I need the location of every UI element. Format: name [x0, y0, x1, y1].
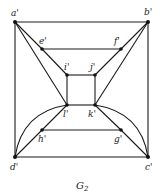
label-h: h'	[38, 134, 46, 144]
edge-b-f	[121, 22, 148, 49]
vertex-c	[146, 155, 150, 159]
edges	[15, 22, 148, 157]
vertex-a	[13, 20, 17, 24]
vertex-labels: a' b' c' d' e' f' i' j' l' k' h' g'	[10, 7, 153, 172]
label-b: b'	[144, 7, 152, 17]
vertex-e	[40, 47, 44, 51]
edge-a-l	[15, 22, 67, 105]
label-i: i'	[64, 62, 69, 72]
label-l: l'	[63, 109, 68, 119]
vertex-b	[146, 20, 150, 24]
label-c: c'	[145, 162, 153, 172]
vertex-k	[93, 103, 97, 107]
figure-caption: G2	[76, 180, 89, 193]
vertex-f	[119, 47, 123, 51]
label-k: k'	[88, 109, 96, 119]
edge-c-g	[121, 130, 148, 157]
label-f: f'	[113, 36, 120, 46]
vertex-l	[65, 103, 69, 107]
label-e: e'	[39, 36, 47, 46]
label-a: a'	[11, 8, 19, 18]
vertex-j	[93, 73, 97, 77]
vertex-g	[119, 128, 123, 132]
vertex-h	[40, 128, 44, 132]
edge-b-k	[95, 22, 148, 105]
label-g: g'	[114, 134, 122, 144]
edge-a-e	[15, 22, 42, 49]
graph-diagram: a' b' c' d' e' f' i' j' l' k' h' g' G2	[0, 0, 162, 195]
edge-g-k	[95, 105, 121, 130]
label-j: j'	[88, 62, 95, 72]
vertex-i	[65, 73, 69, 77]
vertex-d	[13, 155, 17, 159]
label-d: d'	[10, 162, 18, 172]
